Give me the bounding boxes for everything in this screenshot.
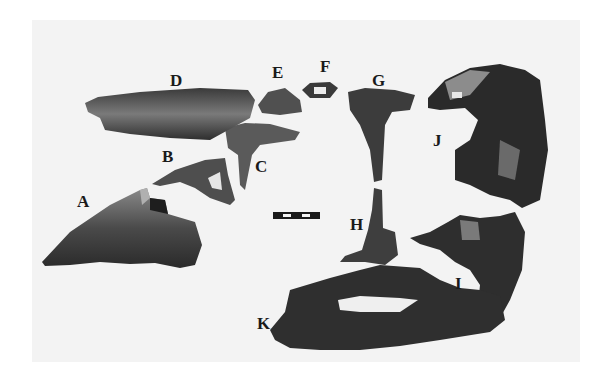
label-f: F	[320, 58, 330, 75]
specimen-f-bone	[302, 82, 338, 98]
label-j: J	[433, 132, 442, 149]
specimen-a-bone	[42, 188, 202, 268]
specimen-j-bone	[428, 64, 548, 208]
label-k: K	[257, 315, 270, 332]
label-c: C	[255, 158, 267, 175]
label-g: G	[372, 72, 385, 89]
specimen-e-bone	[258, 88, 302, 115]
label-i: I	[455, 275, 462, 292]
specimen-g-bone	[348, 88, 415, 182]
specimen-k-bone	[270, 265, 505, 350]
specimen-h-bone	[340, 188, 398, 265]
label-b: B	[162, 148, 173, 165]
label-e: E	[272, 64, 283, 81]
fossil-specimens-figure	[0, 0, 605, 383]
label-h: H	[350, 216, 363, 233]
label-d: D	[170, 72, 182, 89]
label-a: A	[77, 193, 89, 210]
scale-bar	[273, 212, 320, 219]
